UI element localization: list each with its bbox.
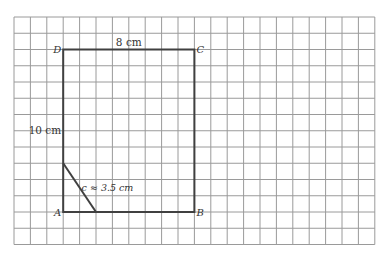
vertex-label-b: B [195,207,203,218]
vertex-label-a: A [53,207,61,218]
left-side-length-label: 10 cm [29,124,62,136]
diagonal-length-label: c ≈ 3.5 cm [82,182,134,193]
vertex-label-c: C [196,44,204,55]
geometry-diagram: D C A B 8 cm 10 cm c ≈ 3.5 cm [0,0,386,257]
top-side-length-label: 8 cm [116,36,142,48]
vertex-label-d: D [52,44,61,55]
